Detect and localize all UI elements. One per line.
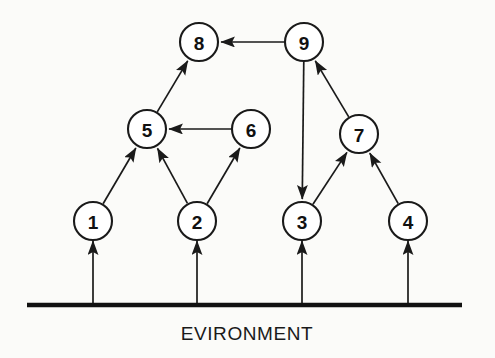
node-2[interactable]: 2 (178, 202, 216, 240)
node-7[interactable]: 7 (340, 115, 378, 153)
environment-label: EVIRONMENT (181, 323, 314, 344)
node-label-6: 6 (246, 120, 257, 141)
node-9[interactable]: 9 (285, 23, 323, 61)
edge-7-to-9 (315, 61, 348, 117)
node-4[interactable]: 4 (389, 202, 427, 240)
node-label-5: 5 (142, 120, 153, 141)
node-label-3: 3 (297, 212, 308, 233)
environment-layer (27, 241, 462, 305)
edge-1-to-5 (103, 148, 136, 204)
node-label-4: 4 (403, 212, 414, 233)
edge-5-to-8 (157, 61, 187, 112)
system-environment-diagram: 123456789 EVIRONMENT (0, 0, 495, 358)
environment-label-layer: EVIRONMENT (181, 323, 314, 344)
node-8[interactable]: 8 (180, 23, 218, 61)
node-label-1: 1 (88, 212, 99, 233)
node-6[interactable]: 6 (232, 110, 270, 148)
nodes-layer: 123456789 (74, 23, 427, 240)
node-label-8: 8 (194, 33, 205, 54)
graph-canvas: 123456789 EVIRONMENT (0, 0, 495, 358)
node-label-9: 9 (299, 33, 310, 54)
node-1[interactable]: 1 (74, 202, 112, 240)
edge-9-to-3 (302, 62, 304, 199)
node-3[interactable]: 3 (283, 202, 321, 240)
edge-2-to-6 (207, 148, 240, 204)
edge-4-to-7 (370, 153, 398, 203)
edge-2-to-5 (158, 148, 188, 203)
node-5[interactable]: 5 (128, 110, 166, 148)
node-label-2: 2 (192, 212, 203, 233)
node-label-7: 7 (354, 125, 365, 146)
edge-3-to-7 (313, 152, 347, 204)
